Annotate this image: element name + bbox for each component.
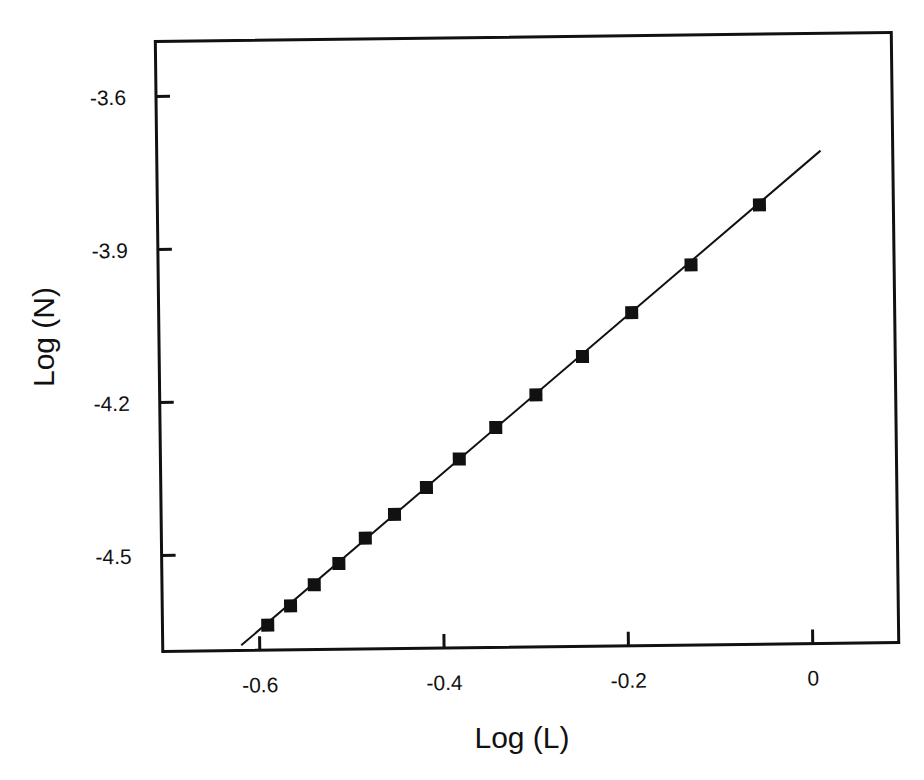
- y-tick-label: -4.5: [95, 545, 131, 568]
- x-tick-label: -0.4: [426, 671, 463, 694]
- data-point-marker: [420, 481, 433, 494]
- x-axis-title: Log (L): [474, 721, 569, 754]
- data-point-marker: [529, 388, 542, 401]
- x-tick-label: 0: [807, 666, 819, 689]
- data-markers: [256, 198, 771, 631]
- x-tick-label: -0.6: [242, 673, 278, 696]
- y-axis-title: Log (N): [27, 287, 60, 387]
- x-axis-ticks: -0.6-0.4-0.20: [241, 629, 819, 696]
- data-point-marker: [684, 258, 697, 271]
- data-point-marker: [308, 578, 321, 591]
- data-point-marker: [489, 421, 502, 434]
- data-point-marker: [576, 350, 589, 363]
- data-point-marker: [359, 532, 372, 545]
- plot-frame: [155, 33, 898, 652]
- data-point-marker: [332, 557, 345, 570]
- data-point-marker: [284, 599, 297, 612]
- y-axis-ticks: -3.6-3.9-4.2-4.5: [90, 85, 176, 568]
- data-point-marker: [388, 508, 401, 521]
- data-point-marker: [261, 618, 274, 631]
- data-point-marker: [625, 306, 638, 319]
- y-tick-label: -3.6: [90, 86, 126, 109]
- data-point-marker: [453, 452, 466, 465]
- x-tick-label: -0.2: [611, 669, 647, 692]
- data-point-marker: [753, 198, 766, 211]
- chart: -0.6-0.4-0.20 -3.6-3.9-4.2-4.5 Log (L) L…: [0, 0, 924, 780]
- y-tick-label: -3.9: [92, 239, 128, 262]
- y-tick-label: -4.2: [93, 392, 129, 415]
